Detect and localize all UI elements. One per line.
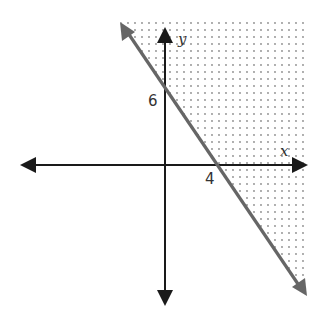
inequality-graph: y x 6 4 bbox=[0, 0, 314, 319]
y-intercept-label: 6 bbox=[148, 92, 158, 110]
x-axis-label: x bbox=[280, 142, 289, 160]
x-axis-left-arrow-icon bbox=[20, 157, 36, 173]
y-axis-down-arrow-icon bbox=[157, 290, 173, 306]
x-intercept-label: 4 bbox=[205, 170, 215, 188]
y-axis-label: y bbox=[177, 30, 187, 48]
